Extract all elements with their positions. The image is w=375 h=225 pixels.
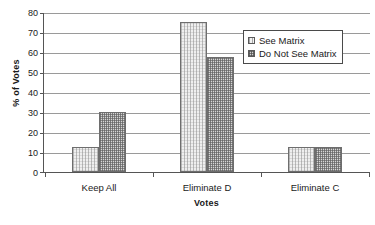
legend-swatch-dark-pattern-icon <box>248 50 255 57</box>
bar-eliminate-c-do-not-see-matrix <box>315 147 342 172</box>
bar-keep-all-do-not-see-matrix <box>99 112 126 172</box>
x-category-label-eliminate-d: Eliminate D <box>153 182 261 193</box>
y-tick-label: 40 <box>14 89 38 98</box>
legend-item-see-matrix: See Matrix <box>248 34 337 47</box>
legend-item-do-not-see-matrix: Do Not See Matrix <box>248 47 337 60</box>
y-tick-label: 80 <box>14 9 38 18</box>
bar-chart: % of Votes 80 70 60 50 40 30 20 10 0 <box>0 0 375 225</box>
y-tick-label: 50 <box>14 69 38 78</box>
x-axis-title: Votes <box>43 198 370 208</box>
x-category-label-eliminate-c: Eliminate C <box>261 182 369 193</box>
y-tick-label: 60 <box>14 49 38 58</box>
x-tick <box>45 173 46 177</box>
x-tick <box>369 173 370 177</box>
bar-eliminate-c-see-matrix <box>288 147 315 172</box>
gridline <box>43 13 370 14</box>
y-tick-label: 30 <box>14 109 38 118</box>
y-tick-label: 0 <box>14 169 38 178</box>
bar-keep-all-see-matrix <box>72 147 99 172</box>
bar-eliminate-d-do-not-see-matrix <box>207 57 234 172</box>
x-category-label-keep-all: Keep All <box>45 182 153 193</box>
y-tick-label: 70 <box>14 29 38 38</box>
y-tick-label: 20 <box>14 129 38 138</box>
x-tick <box>153 173 154 177</box>
x-axis-line <box>43 172 370 173</box>
bar-eliminate-d-see-matrix <box>180 22 207 172</box>
legend-swatch-light-pattern-icon <box>248 37 255 44</box>
y-axis-line <box>43 13 44 173</box>
y-axis-tick-labels: 80 70 60 50 40 30 20 10 0 <box>14 0 38 225</box>
legend-label: Do Not See Matrix <box>259 48 337 59</box>
x-tick <box>261 173 262 177</box>
y-tick-label: 10 <box>14 149 38 158</box>
legend-label: See Matrix <box>259 35 304 46</box>
legend: See Matrix Do Not See Matrix <box>243 30 343 64</box>
